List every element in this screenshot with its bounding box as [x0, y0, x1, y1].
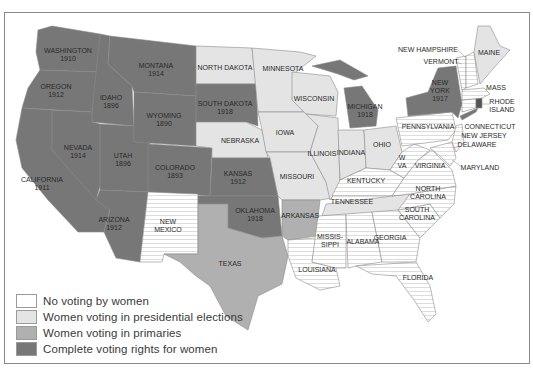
- svg-text:ARKANSAS: ARKANSAS: [281, 212, 319, 219]
- legend-item-complete: Complete voting rights for women: [16, 341, 243, 357]
- svg-text:OKLAHOMA: OKLAHOMA: [235, 207, 275, 214]
- svg-text:1890: 1890: [156, 120, 172, 127]
- state-arkansas: [282, 200, 320, 240]
- svg-text:WISCONSIN: WISCONSIN: [294, 95, 334, 102]
- svg-text:IOWA: IOWA: [276, 129, 295, 136]
- svg-text:1912: 1912: [48, 91, 64, 98]
- svg-text:W: W: [399, 154, 406, 161]
- svg-text:1896: 1896: [115, 160, 131, 167]
- swatch-no-voting: [16, 294, 37, 308]
- svg-text:1896: 1896: [103, 102, 119, 109]
- swatch-presidential: [16, 310, 37, 324]
- svg-text:SOUTH: SOUTH: [405, 206, 430, 213]
- legend-label: Women voting in primaries: [43, 327, 181, 339]
- svg-text:MISSOURI: MISSOURI: [280, 173, 315, 180]
- svg-text:CAROLINA: CAROLINA: [410, 193, 446, 200]
- svg-text:MEXICO: MEXICO: [154, 226, 182, 233]
- legend-item-primaries: Women voting in primaries: [16, 325, 243, 341]
- state-kansas: [210, 158, 278, 196]
- svg-text:MINNESOTA: MINNESOTA: [262, 65, 303, 72]
- svg-text:WASHINGTON: WASHINGTON: [44, 47, 92, 54]
- svg-text:NEW: NEW: [432, 79, 449, 86]
- svg-text:NEW: NEW: [160, 218, 177, 225]
- svg-text:1914: 1914: [148, 70, 164, 77]
- svg-text:MISSIS-: MISSIS-: [317, 233, 344, 240]
- swatch-primaries: [16, 326, 37, 340]
- svg-text:OHIO: OHIO: [373, 141, 391, 148]
- legend-item-presidential: Women voting in presidential elections: [16, 309, 243, 325]
- svg-text:1912: 1912: [230, 178, 246, 185]
- legend-label: Women voting in presidential elections: [43, 311, 243, 323]
- svg-text:CAROLINA: CAROLINA: [399, 214, 435, 221]
- svg-text:1893: 1893: [167, 172, 183, 179]
- svg-text:TENNESSEE: TENNESSEE: [331, 198, 374, 205]
- svg-text:ARIZONA: ARIZONA: [98, 216, 129, 223]
- svg-text:MONTANA: MONTANA: [139, 62, 174, 69]
- svg-text:KENTUCKY: KENTUCKY: [347, 177, 385, 184]
- svg-text:RHODE: RHODE: [489, 98, 515, 105]
- state-rhode-island: [476, 98, 482, 108]
- svg-text:MARYLAND: MARYLAND: [461, 164, 500, 171]
- svg-text:COLORADO: COLORADO: [155, 164, 196, 171]
- svg-text:1911: 1911: [34, 184, 49, 191]
- svg-text:FLORIDA: FLORIDA: [403, 274, 434, 281]
- svg-text:CALIFORNIA: CALIFORNIA: [21, 176, 63, 183]
- legend-label: Complete voting rights for women: [43, 343, 218, 355]
- svg-text:DELAWARE: DELAWARE: [458, 141, 497, 148]
- svg-text:NORTH: NORTH: [416, 185, 441, 192]
- svg-text:WYOMING: WYOMING: [147, 112, 182, 119]
- svg-text:LOUISIANA: LOUISIANA: [298, 266, 336, 273]
- svg-text:1918: 1918: [357, 111, 373, 118]
- svg-text:ILLINOIS: ILLINOIS: [308, 150, 337, 157]
- map-legend: No voting by women Women voting in presi…: [16, 293, 243, 357]
- svg-text:INDIANA: INDIANA: [337, 149, 366, 156]
- svg-text:NEW HAMPSHIRE: NEW HAMPSHIRE: [398, 46, 458, 53]
- svg-text:1918: 1918: [247, 215, 263, 222]
- svg-text:NEBRASKA: NEBRASKA: [221, 137, 259, 144]
- svg-text:GEORGIA: GEORGIA: [374, 234, 407, 241]
- svg-text:1918: 1918: [217, 108, 233, 115]
- legend-label: No voting by women: [43, 295, 149, 307]
- svg-text:PENNSYLVANIA: PENNSYLVANIA: [402, 123, 455, 130]
- svg-text:1910: 1910: [60, 55, 76, 62]
- svg-text:UTAH: UTAH: [114, 152, 133, 159]
- svg-text:1912: 1912: [106, 224, 122, 231]
- state-wyoming: [134, 92, 196, 146]
- state-florida: [356, 262, 436, 322]
- svg-text:ISLAND: ISLAND: [489, 106, 514, 113]
- svg-text:YORK: YORK: [430, 87, 450, 94]
- swatch-complete: [16, 342, 37, 356]
- svg-text:NORTH DAKOTA: NORTH DAKOTA: [198, 64, 253, 71]
- svg-text:1914: 1914: [70, 152, 86, 159]
- svg-text:VERMONT: VERMONT: [424, 58, 460, 65]
- svg-text:IDAHO: IDAHO: [100, 94, 123, 101]
- svg-text:OREGON: OREGON: [40, 83, 71, 90]
- svg-text:MASS: MASS: [486, 84, 506, 91]
- svg-text:CONNECTICUT: CONNECTICUT: [465, 123, 517, 130]
- svg-text:TEXAS: TEXAS: [219, 260, 242, 267]
- legend-item-none: No voting by women: [16, 293, 243, 309]
- svg-text:1917: 1917: [432, 95, 448, 102]
- svg-text:KANSAS: KANSAS: [224, 170, 253, 177]
- svg-text:MAINE: MAINE: [478, 49, 501, 56]
- svg-text:NEW JERSEY: NEW JERSEY: [461, 132, 507, 139]
- svg-text:MICHIGAN: MICHIGAN: [348, 103, 383, 110]
- svg-text:NEVADA: NEVADA: [64, 144, 93, 151]
- svg-text:VA: VA: [398, 162, 407, 169]
- svg-text:VIRGINIA: VIRGINIA: [415, 162, 446, 169]
- svg-text:SIPPI: SIPPI: [321, 241, 339, 248]
- svg-text:SOUTH DAKOTA: SOUTH DAKOTA: [198, 100, 253, 107]
